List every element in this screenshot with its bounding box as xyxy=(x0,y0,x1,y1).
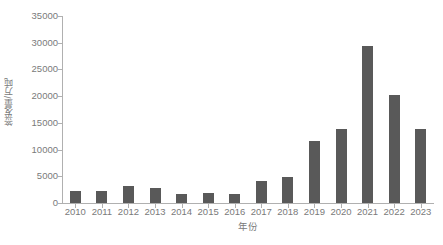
x-axis-line xyxy=(62,203,434,204)
y-axis-tick-label: 35000 xyxy=(16,11,58,21)
x-axis-tick-label: 2023 xyxy=(401,206,441,218)
y-axis-tick-mark xyxy=(58,96,62,97)
y-axis-tick-label: 0 xyxy=(16,198,58,208)
y-axis-tick-mark xyxy=(58,69,62,70)
y-axis-tick-label: 25000 xyxy=(16,64,58,74)
y-axis-tick-mark xyxy=(58,16,62,17)
y-axis-tick-label: 10000 xyxy=(16,145,58,155)
y-axis-title: 签发量/万吨 xyxy=(0,0,14,203)
y-axis-tick-mark xyxy=(58,176,62,177)
bar xyxy=(176,194,187,203)
y-axis-tick-label: 30000 xyxy=(16,38,58,48)
bar xyxy=(203,193,214,203)
bar xyxy=(256,181,267,203)
y-axis-tick-label: 5000 xyxy=(16,171,58,181)
y-axis-tick-mark xyxy=(58,150,62,151)
y-axis-tick-mark xyxy=(58,123,62,124)
y-axis-line xyxy=(62,16,63,203)
bar xyxy=(123,186,134,203)
bar xyxy=(96,191,107,203)
bar xyxy=(389,95,400,203)
bar xyxy=(70,191,81,203)
bar xyxy=(150,188,161,203)
x-axis-title: 年份 xyxy=(62,221,434,233)
x-axis-tick-labels: 2010201120122013201420152016201720182019… xyxy=(62,206,434,222)
y-axis-tick-mark xyxy=(58,43,62,44)
plot-area xyxy=(62,16,434,203)
y-axis-title-label: 签发量/万吨 xyxy=(1,78,14,126)
bar xyxy=(415,129,426,203)
y-axis-tick-mark xyxy=(58,203,62,204)
bar xyxy=(229,194,240,203)
bar xyxy=(362,46,373,203)
bar-chart: 签发量/万吨 050001000015000200002500030000350… xyxy=(0,0,443,245)
bar xyxy=(282,177,293,203)
y-axis-tick-label: 15000 xyxy=(16,118,58,128)
bar xyxy=(309,141,320,204)
y-axis-tick-labels: 05000100001500020000250003000035000 xyxy=(14,0,58,245)
y-axis-tick-label: 20000 xyxy=(16,91,58,101)
bar xyxy=(336,129,347,203)
